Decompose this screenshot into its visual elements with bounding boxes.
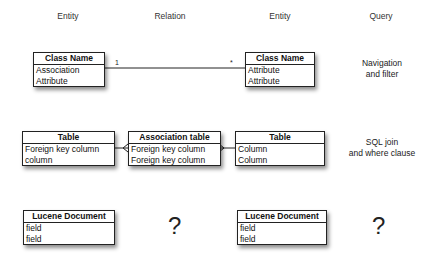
box-title: Table [236,132,324,144]
box-title: Association table [129,132,220,144]
query-navigation: Navigation and filter [327,58,437,80]
class-name-box-left: Class Name Association Attribute [33,52,105,87]
table-box-left: Table Foreign key column column [22,131,115,166]
query-line: and filter [327,69,437,80]
multiplicity-many: * [230,59,233,66]
box-field: Foreign key column [129,144,220,155]
box-title: Lucene Document [238,211,326,223]
box-field: Attribute [34,76,104,87]
box-title: Table [23,132,114,144]
box-title: Class Name [246,53,314,65]
box-field: Column [236,144,324,155]
box-title: Class Name [34,53,104,65]
box-field: Association [34,65,104,76]
lucene-document-box-right: Lucene Document field field [237,210,327,245]
query-unknown-question-mark: ? [372,212,385,240]
lucene-document-box-left: Lucene Document field field [23,210,115,245]
box-field: Column [236,155,324,166]
box-field: Foreign key column [23,144,114,155]
class-name-box-right: Class Name Attribute Attribute [245,52,315,87]
multiplicity-one: 1 [115,59,119,66]
box-field: field [238,223,326,234]
box-field: Attribute [246,76,314,87]
table-box-right: Table Column Column [235,131,325,166]
box-field: Attribute [246,65,314,76]
box-title: Lucene Document [24,211,114,223]
box-field: field [24,234,114,245]
query-line: and where clause [327,148,437,159]
box-field: column [23,155,114,166]
query-line: SQL join [327,137,437,148]
box-field: field [238,234,326,245]
association-table-box: Association table Foreign key column For… [128,131,221,166]
box-field: field [24,223,114,234]
query-line: Navigation [327,58,437,69]
query-sql-join: SQL join and where clause [327,137,437,159]
box-field: Foreign key column [129,155,220,166]
relation-unknown-question-mark: ? [168,212,181,240]
